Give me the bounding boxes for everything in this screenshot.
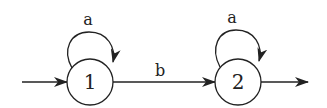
state-1-label: 1	[84, 70, 97, 94]
state-2-label: 2	[232, 70, 245, 94]
diagram-svg: a 1 b a 2	[0, 0, 327, 108]
transition-1-2-label: b	[155, 61, 165, 80]
loop-2-label: a	[227, 8, 237, 27]
loop-1-label: a	[83, 10, 93, 29]
automaton-diagram: a 1 b a 2	[0, 0, 327, 108]
